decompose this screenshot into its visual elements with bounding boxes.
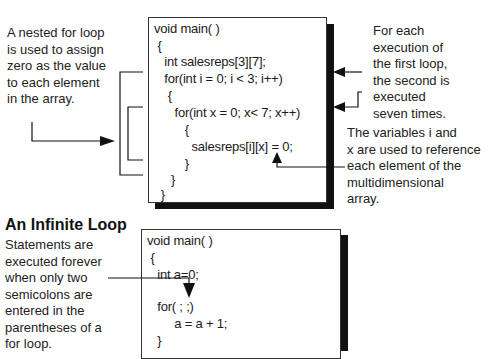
infinite-loop-arrow-icon <box>108 278 195 298</box>
inner-loop-bracket <box>128 107 143 160</box>
index-arrow-icon <box>272 152 345 167</box>
second-loop-arrow-icon <box>333 92 362 112</box>
left-arrow-icon <box>32 122 115 146</box>
first-loop-arrow-icon <box>333 67 362 77</box>
